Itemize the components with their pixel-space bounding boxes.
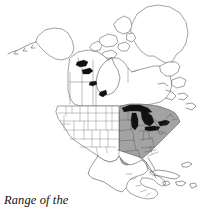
range-map-figure: .land{fill:#ffffff;stroke:#545454;stroke…	[0, 0, 204, 220]
figure-caption: Range of the gray treefrog	[4, 178, 124, 220]
caption-line-1: Range of the	[4, 193, 124, 208]
